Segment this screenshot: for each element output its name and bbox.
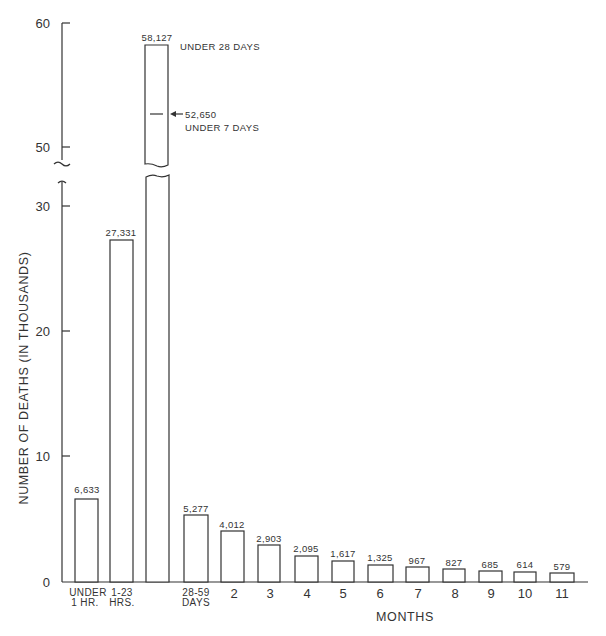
bar-1-23-hrs bbox=[110, 240, 133, 582]
y-axis bbox=[54, 23, 70, 582]
value-label: 967 bbox=[409, 555, 426, 566]
y-tick-label-30: 30 bbox=[36, 199, 50, 214]
bar-month-4 bbox=[295, 556, 318, 582]
bar-month-5 bbox=[332, 561, 354, 582]
month-label: 4 bbox=[303, 586, 310, 601]
y-axis-title: NUMBER OF DEATHS (IN THOUSANDS) bbox=[17, 252, 31, 505]
bar-month-3 bbox=[258, 545, 280, 582]
y-tick-label-10: 10 bbox=[36, 449, 50, 464]
bar-month-7 bbox=[406, 567, 429, 582]
category-label: DAYS bbox=[182, 597, 210, 608]
value-label: 5,277 bbox=[183, 503, 208, 514]
month-label: 5 bbox=[339, 586, 346, 601]
svg-text:UNDER 7 DAYS: UNDER 7 DAYS bbox=[185, 122, 259, 133]
value-label: 6,633 bbox=[74, 484, 99, 495]
month-label: 3 bbox=[266, 586, 273, 601]
value-label: 579 bbox=[554, 561, 571, 572]
arrow-left-icon bbox=[170, 111, 176, 117]
month-label: 9 bbox=[487, 586, 494, 601]
category-labels: UNDER 1 HR. 1-23 HRS. 28-59 DAYS 2 3 4 5… bbox=[69, 586, 569, 608]
bar-month-8 bbox=[443, 569, 465, 582]
month-label: 6 bbox=[376, 586, 383, 601]
x-axis-title: MONTHS bbox=[376, 610, 434, 624]
month-label: 10 bbox=[518, 586, 532, 601]
annotation-under-28-days: UNDER 28 DAYS bbox=[180, 41, 260, 52]
bar-month-10 bbox=[514, 572, 536, 582]
month-label: 8 bbox=[451, 586, 458, 601]
y-tick-label-20: 20 bbox=[36, 324, 50, 339]
month-label: 7 bbox=[414, 586, 421, 601]
bar-chart: 60 50 30 20 10 0 NUMBER OF DEATHS (IN TH… bbox=[0, 0, 606, 636]
value-label: 2,903 bbox=[256, 533, 281, 544]
y-tick-label-60: 60 bbox=[36, 16, 50, 31]
value-label: 827 bbox=[446, 557, 463, 568]
value-label: 1,325 bbox=[367, 552, 392, 563]
axis-break-icon bbox=[54, 162, 70, 166]
y-tick-label-50: 50 bbox=[36, 140, 50, 155]
bar-under-28-days bbox=[145, 45, 169, 582]
bars bbox=[75, 45, 574, 582]
y-tick-label-0: 0 bbox=[43, 575, 50, 590]
value-label: 58,127 bbox=[142, 32, 173, 43]
value-label: 614 bbox=[517, 559, 534, 570]
bar-month-11 bbox=[550, 573, 574, 582]
annotation-under-7-days: 52,650 UNDER 7 DAYS bbox=[170, 109, 259, 133]
month-label: 2 bbox=[230, 586, 237, 601]
value-label: 2,095 bbox=[293, 543, 318, 554]
category-label: HRS. bbox=[109, 597, 135, 608]
value-label: 4,012 bbox=[219, 519, 244, 530]
bar-month-9 bbox=[479, 571, 502, 582]
bar-28-59-days bbox=[184, 515, 208, 582]
bar-under-1-hr bbox=[75, 499, 98, 582]
svg-text:52,650: 52,650 bbox=[185, 109, 216, 120]
category-label: 1 HR. bbox=[71, 597, 99, 608]
value-label: 27,331 bbox=[106, 227, 137, 238]
value-label: 685 bbox=[482, 559, 499, 570]
month-label: 11 bbox=[555, 586, 569, 601]
value-label: 1,617 bbox=[330, 548, 355, 559]
bar-month-6 bbox=[368, 565, 393, 582]
bar-month-2 bbox=[221, 531, 244, 582]
